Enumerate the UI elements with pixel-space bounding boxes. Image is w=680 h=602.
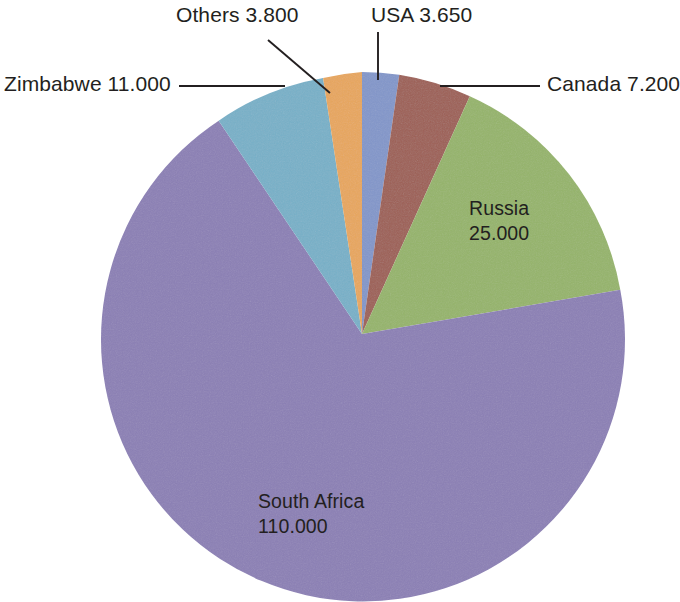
pie-label-others: Others 3.800	[176, 3, 299, 28]
pie-label-south-africa-name: South Africa	[258, 489, 364, 514]
pie-label-russia-value: 25.000	[469, 221, 529, 246]
pie-label-usa: USA 3.650	[371, 3, 472, 28]
pie-label-russia: Russia 25.000	[469, 196, 529, 247]
pie-label-russia-name: Russia	[469, 196, 529, 221]
pie-label-canada: Canada 7.200	[547, 72, 680, 97]
pie-label-south-africa: South Africa 110.000	[258, 489, 364, 540]
pie-label-south-africa-value: 110.000	[258, 514, 364, 539]
pie-label-zimbabwe: Zimbabwe 11.000	[4, 72, 171, 97]
